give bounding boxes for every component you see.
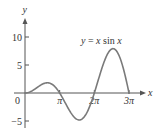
y-tick-label: 5	[17, 60, 22, 71]
annotation-arg: x	[116, 35, 122, 46]
x-tick-label: 3π	[123, 95, 135, 106]
y-axis-label: y	[22, 4, 28, 15]
plot-area: π2π3π 105−5 x y 0 y = x sin x	[0, 0, 157, 140]
function-annotation: y = x sin x	[80, 35, 122, 46]
series-line-x-sin-x	[25, 49, 129, 120]
annotation-fn: sin	[101, 35, 118, 46]
y-axis-arrow-icon	[23, 18, 28, 24]
y-tick-label: 10	[12, 32, 22, 43]
annotation-eq: =	[85, 35, 96, 46]
origin-label: 0	[15, 95, 20, 106]
x-axis-arrow-icon	[140, 91, 146, 96]
chart-figure: π2π3π 105−5 x y 0 y = x sin x	[0, 0, 157, 140]
x-axis-label: x	[147, 87, 153, 98]
y-ticks: 105−5	[11, 32, 29, 127]
x-ticks: π2π3π	[57, 90, 135, 106]
y-tick-label: −5	[11, 116, 22, 127]
